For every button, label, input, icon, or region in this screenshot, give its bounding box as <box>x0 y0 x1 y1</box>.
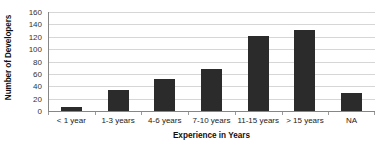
x-axis-tick <box>188 112 189 115</box>
bar <box>108 90 129 111</box>
bar <box>201 69 222 111</box>
y-axis-tick-labels: 160140120100806040200 <box>18 12 45 111</box>
x-axis-tick <box>141 112 142 115</box>
x-axis-tick <box>235 112 236 115</box>
y-axis-tick-label: 160 <box>29 8 42 17</box>
x-axis-tick-label: 1-3 years <box>101 116 134 125</box>
bar-chart-figure: Number of Developers 1601401201008060402… <box>0 0 387 149</box>
x-axis-tick-label: > 15 years <box>286 116 324 125</box>
x-axis-tick-label: 4-6 years <box>148 116 181 125</box>
y-axis-tick-label: 20 <box>33 94 42 103</box>
x-axis-tick-label: NA <box>346 116 357 125</box>
bar <box>341 93 362 111</box>
bar <box>294 30 315 111</box>
y-axis-tick-label: 40 <box>33 82 42 91</box>
y-axis-tick-label: 80 <box>33 57 42 66</box>
y-axis-tick-label: 0 <box>38 107 42 116</box>
bars-layer <box>48 12 375 111</box>
bar <box>248 36 269 111</box>
x-axis-tick <box>48 112 49 115</box>
bar <box>154 79 175 111</box>
x-axis-tick-labels: < 1 year1-3 years4-6 years7-10 years11-1… <box>48 116 375 130</box>
y-axis-tick-label: 120 <box>29 32 42 41</box>
x-axis-tick <box>374 112 375 115</box>
x-axis-tick <box>328 112 329 115</box>
x-axis-tick-label: 11-15 years <box>237 116 279 125</box>
x-axis-tick-label: 7-10 years <box>193 116 231 125</box>
y-axis-tick-label: 140 <box>29 20 42 29</box>
y-axis-tick-label: 60 <box>33 69 42 78</box>
y-axis-title: Number of Developers <box>0 0 18 115</box>
x-axis-title: Experience in Years <box>48 131 375 140</box>
y-axis-title-text: Number of Developers <box>5 15 14 100</box>
x-axis-tick <box>95 112 96 115</box>
bar <box>61 107 82 111</box>
x-axis-tick <box>282 112 283 115</box>
x-axis-tick-label: < 1 year <box>57 116 86 125</box>
y-axis-tick-label: 100 <box>29 45 42 54</box>
